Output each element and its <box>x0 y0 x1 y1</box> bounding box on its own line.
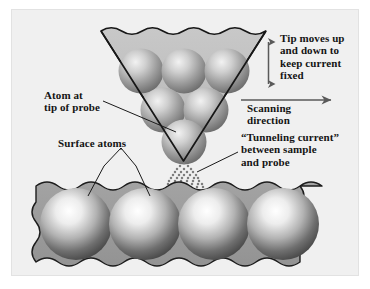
leader-surface-atoms <box>104 148 136 166</box>
probe-atom <box>205 49 250 94</box>
label-scanning-direction: Scanning direction <box>247 102 291 127</box>
label-atom-at-tip: Atom at tip of probe <box>44 89 100 114</box>
surface-atom <box>247 188 319 260</box>
figure-stage: Tip moves up and down to keep current fi… <box>0 0 370 289</box>
surface-atom <box>109 188 181 260</box>
surface-atom <box>40 188 112 260</box>
probe-atom <box>119 49 164 94</box>
probe-atom-tip <box>162 120 207 165</box>
surface-atom <box>178 188 250 260</box>
leader-tunneling <box>197 152 238 172</box>
label-tip-moves: Tip moves up and down to keep current fi… <box>280 32 345 82</box>
sample-surface <box>32 182 322 266</box>
label-surface-atoms: Surface atoms <box>58 137 126 149</box>
label-tunneling-current: “Tunneling current” between sample and p… <box>241 131 339 168</box>
probe-atoms <box>119 49 250 165</box>
probe-atom <box>162 49 207 94</box>
